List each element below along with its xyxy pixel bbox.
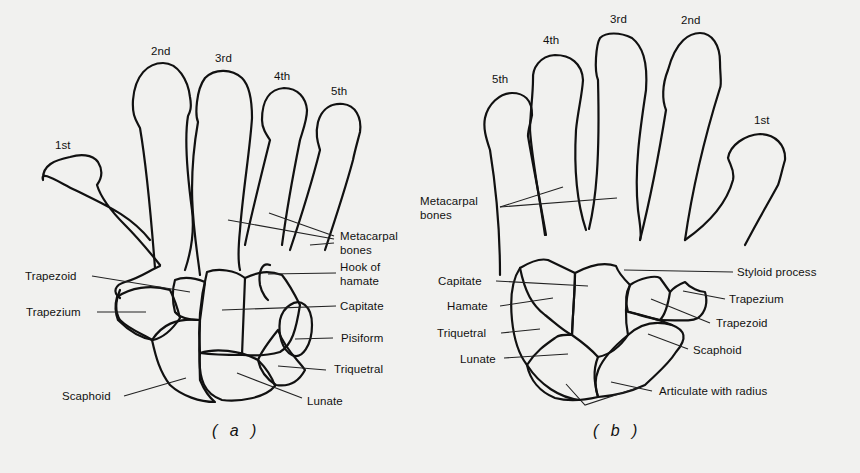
hand-bones-artwork: [0, 0, 860, 473]
label-capitate-a: Capitate: [340, 299, 384, 313]
label-scaphoid-a: Scaphoid: [62, 389, 111, 403]
label-metacarpal-bones-b: Metacarpal bones: [420, 194, 478, 222]
label-trapezium-a: Trapezium: [26, 305, 81, 319]
digit-label-1st-b: 1st: [754, 113, 770, 127]
label-styloid-process-b: Styloid process: [737, 265, 816, 279]
digit-label-2nd-a: 2nd: [151, 44, 171, 58]
caption-a: ( a ): [212, 422, 260, 440]
label-capitate-b: Capitate: [438, 274, 482, 288]
digit-label-4th-a: 4th: [274, 69, 290, 83]
caption-b: ( b ): [593, 422, 641, 440]
hand-bones-diagram: 1st 2nd 3rd 4th 5th Metacarpal bones Hoo…: [0, 0, 860, 473]
digit-label-3rd-b: 3rd: [610, 12, 627, 26]
label-articulate-with-radius-b: Articulate with radius: [659, 384, 767, 398]
label-scaphoid-b: Scaphoid: [693, 343, 742, 357]
figure-a-drawing: [43, 63, 361, 402]
label-trapezoid-b: Trapezoid: [716, 316, 768, 330]
label-trapezoid-a: Trapezoid: [25, 269, 77, 283]
label-triquetral-a: Triquetral: [334, 362, 383, 376]
label-pisiform-a: Pisiform: [341, 331, 383, 345]
digit-label-2nd-b: 2nd: [681, 13, 701, 27]
digit-label-5th-b: 5th: [492, 72, 508, 86]
digit-label-4th-b: 4th: [543, 33, 559, 47]
digit-label-1st-a: 1st: [55, 138, 71, 152]
label-triquetral-b: Triquetral: [437, 326, 486, 340]
digit-label-3rd-a: 3rd: [215, 51, 232, 65]
label-metacarpal-bones-a: Metacarpal bones: [340, 229, 398, 257]
label-lunate-b: Lunate: [460, 352, 496, 366]
digit-label-5th-a: 5th: [331, 84, 347, 98]
label-trapezium-b: Trapezium: [729, 292, 784, 306]
label-lunate-a: Lunate: [307, 394, 343, 408]
label-hamate-b: Hamate: [447, 299, 488, 313]
label-hook-of-hamate-a: Hook of hamate: [340, 260, 380, 288]
